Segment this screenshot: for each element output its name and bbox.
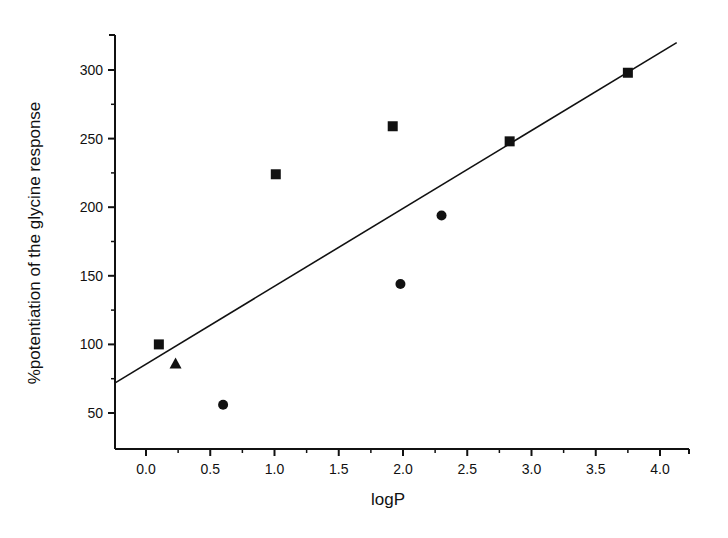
- square-marker: [505, 136, 515, 146]
- x-tick-label: 4.0: [650, 461, 670, 477]
- y-tick-label: 150: [80, 268, 104, 284]
- axes: 501001502002503000.00.51.01.52.02.53.03.…: [80, 35, 689, 477]
- fit-line: [115, 43, 677, 383]
- x-tick-label: 2.5: [458, 461, 478, 477]
- y-axis-title: %potentiation of the glycine response: [25, 102, 44, 385]
- y-tick-label: 300: [80, 62, 104, 78]
- triangle-marker: [170, 358, 182, 369]
- x-tick-label: 2.0: [393, 461, 413, 477]
- data-points: [154, 68, 633, 410]
- circle-marker: [218, 400, 228, 410]
- square-marker: [388, 121, 398, 131]
- square-marker: [623, 68, 633, 78]
- x-axis-title: logP: [371, 490, 405, 509]
- y-tick-label: 250: [80, 131, 104, 147]
- square-marker: [271, 169, 281, 179]
- x-tick-label: 3.5: [586, 461, 606, 477]
- x-tick-label: 1.0: [265, 461, 285, 477]
- y-tick-label: 50: [87, 405, 103, 421]
- x-tick-label: 0.0: [136, 461, 156, 477]
- square-marker: [154, 339, 164, 349]
- regression-line: [115, 43, 677, 383]
- x-tick-label: 1.5: [329, 461, 349, 477]
- circle-marker: [437, 210, 447, 220]
- y-tick-label: 200: [80, 199, 104, 215]
- circle-marker: [395, 279, 405, 289]
- x-tick-label: 3.0: [522, 461, 542, 477]
- scatter-chart: 501001502002503000.00.51.01.52.02.53.03.…: [0, 0, 728, 538]
- y-tick-label: 100: [80, 336, 104, 352]
- x-tick-label: 0.5: [201, 461, 221, 477]
